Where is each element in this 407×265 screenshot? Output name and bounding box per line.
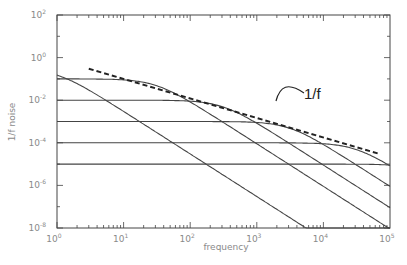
y-tick-label: 100 <box>31 51 46 63</box>
curve-lorentzian-3 <box>57 100 390 208</box>
y-tick-label: 102 <box>31 8 46 20</box>
curve-lorentzian-4 <box>57 122 390 187</box>
x-tick-label: 100 <box>46 232 61 244</box>
x-tick-label: 102 <box>180 232 195 244</box>
noise-spectrum-chart: 100101102103104105 10210010-210-410-610-… <box>0 0 407 265</box>
x-tick-label: 105 <box>379 232 394 244</box>
y-tick-label: 10-4 <box>29 136 47 148</box>
y-tick-label: 10-6 <box>29 178 47 190</box>
curve-lorentzian-1 <box>57 75 390 228</box>
y-axis-title: 1/f noise <box>7 102 17 141</box>
annotation-1-over-f: 1/f <box>304 85 322 102</box>
x-tick-label: 104 <box>313 232 328 244</box>
curve-lorentzian-6 <box>57 164 390 165</box>
annotation-arrow-icon <box>276 87 304 101</box>
lorentzian-curves <box>57 75 390 228</box>
y-tick-label: 10-2 <box>29 93 47 105</box>
x-axis-title: frequency <box>203 242 249 252</box>
y-tick-labels: 10210010-210-410-610-8 <box>29 8 47 233</box>
y-tick-label: 10-8 <box>29 221 47 233</box>
x-tick-label: 101 <box>113 232 128 244</box>
